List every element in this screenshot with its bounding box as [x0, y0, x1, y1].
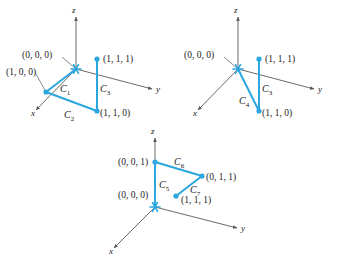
panel-1-coord-origin: (0, 0, 0): [22, 50, 52, 61]
panel-2-leader-origin: [224, 57, 238, 69]
panel-1-leader-100: [36, 74, 46, 92]
panel-3-label-curve-c5-subscript: 5: [166, 185, 170, 193]
panel-1-leader-origin: [62, 57, 76, 69]
panel-3-vertex-111: [173, 193, 178, 198]
panel-2-vertex-110: [256, 108, 261, 113]
panel-1-coord-point-110: (1, 1, 0): [100, 108, 130, 119]
panel-1-vertex-110: [94, 108, 99, 113]
panel-1-axis-label-x: x: [30, 108, 35, 118]
panel-2-y-axis: [238, 69, 314, 89]
panel-3-x-axis: [114, 207, 155, 248]
panel-3: zyx(0, 0, 1)(0, 0, 0)(0, 1, 1)(1, 1, 1)C…: [108, 126, 245, 256]
panel-1-coord-point-111: (1, 1, 1): [103, 54, 133, 65]
panel-1-label-curve-c1-subscript: 1: [67, 89, 71, 97]
panels-group: zyx(0, 0, 0)(1, 0, 0)(1, 1, 1)(1, 1, 0)C…: [6, 5, 322, 256]
panel-1-y-axis: [76, 69, 152, 89]
panel-2-label-curve-c3-subscript: 3: [269, 89, 273, 97]
panel-2-coord-origin: (0, 0, 0): [184, 50, 214, 61]
panel-2-axis-label-x: x: [192, 108, 197, 118]
panel-2-x-axis: [198, 69, 238, 110]
panel-2-label-curve-c4: C4: [239, 95, 250, 109]
panel-1-label-curve-c3: C3: [100, 83, 111, 97]
panel-1-label-curve-c1: C1: [60, 83, 71, 97]
panel-1: zyx(0, 0, 0)(1, 0, 0)(1, 1, 1)(1, 1, 0)C…: [6, 5, 160, 123]
panel-2-axis-label-y: y: [317, 84, 322, 94]
panel-3-coord-point-011: (0, 1, 1): [206, 172, 236, 183]
panel-1-label-curve-c2-subscript: 2: [71, 115, 75, 123]
panel-3-vertex-011: [199, 173, 204, 178]
panel-1-axis-label-z: z: [71, 5, 76, 15]
panel-2-label-curve-c3: C3: [262, 83, 273, 97]
panel-2-coord-point-110: (1, 1, 0): [262, 108, 292, 119]
panel-3-label-curve-c7-subscript: 7: [197, 190, 201, 198]
figure-canvas: zyx(0, 0, 0)(1, 0, 0)(1, 1, 1)(1, 1, 0)C…: [0, 0, 341, 271]
panel-1-coord-point-100: (1, 0, 0): [6, 67, 36, 78]
panel-3-label-curve-c5: C5: [159, 179, 170, 193]
panel-3-coord-origin: (0, 0, 0): [118, 190, 148, 201]
panel-3-vertex-001: [152, 159, 157, 164]
panel-3-label-curve-c6-subscript: 6: [181, 162, 185, 170]
panel-3-coord-point-001: (0, 0, 1): [118, 157, 148, 168]
panel-3-axis-label-z: z: [150, 126, 155, 136]
math-figure-3d-curves: zyx(0, 0, 0)(1, 0, 0)(1, 1, 1)(1, 1, 0)C…: [0, 0, 341, 271]
panel-1-curve-c2: [46, 92, 97, 111]
panel-3-y-axis: [155, 207, 237, 228]
panel-1-vertex-100: [43, 89, 48, 94]
panel-1-label-curve-c2: C2: [64, 109, 75, 123]
panel-3-axis-label-y: y: [240, 223, 245, 233]
panel-1-label-curve-c3-subscript: 3: [107, 89, 111, 97]
panel-2-vertex-111: [256, 56, 261, 61]
panel-2-label-curve-c4-subscript: 4: [246, 101, 250, 109]
panel-3-axis-label-x: x: [108, 246, 113, 256]
panel-2: zyx(0, 0, 0)(1, 1, 1)(1, 1, 0)C4C3: [184, 5, 322, 119]
panel-2-coord-point-111: (1, 1, 1): [265, 54, 295, 65]
panel-2-axis-label-z: z: [233, 5, 238, 15]
panel-1-axis-label-y: y: [155, 84, 160, 94]
panel-1-vertex-111: [94, 56, 99, 61]
